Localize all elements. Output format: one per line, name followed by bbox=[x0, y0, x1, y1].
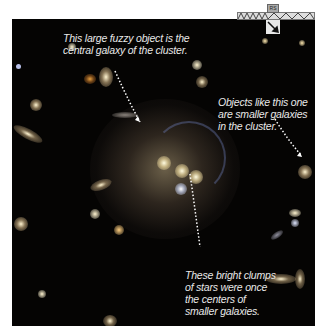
cursor-arrow-icon bbox=[266, 20, 280, 34]
caption-bright-clumps: These bright clumps of stars were once t… bbox=[185, 269, 276, 317]
galaxy-cluster-image: This large fuzzy object is the central g… bbox=[12, 19, 315, 326]
scale-ruler bbox=[237, 12, 315, 20]
caption-central-galaxy: This large fuzzy object is the central g… bbox=[63, 32, 189, 56]
caption-smaller-galaxies: Objects like this one are smaller galaxi… bbox=[218, 96, 308, 132]
ruler-zigzag-icon bbox=[238, 13, 314, 19]
scale-label: RS bbox=[267, 4, 279, 13]
